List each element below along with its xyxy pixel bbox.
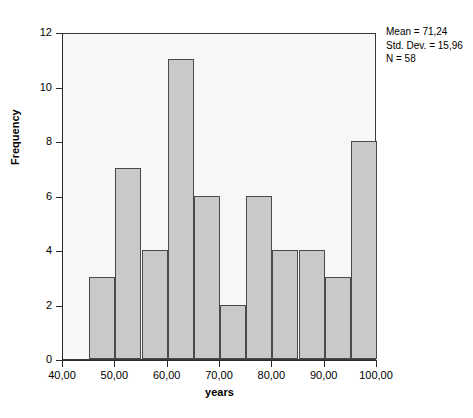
histogram-bar	[220, 305, 246, 360]
histogram-bar	[246, 196, 272, 360]
y-tick-mark	[56, 251, 62, 252]
x-tick-mark	[62, 361, 63, 367]
y-tick-mark	[56, 33, 62, 34]
x-tick-label: 50,00	[84, 370, 144, 381]
x-tick-mark	[271, 361, 272, 367]
y-tick-label: 0	[12, 354, 52, 365]
y-axis-line	[62, 33, 63, 360]
stat-std-dev: Std. Dev. = 15,96	[386, 39, 463, 53]
y-tick-mark	[56, 306, 62, 307]
y-tick-label: 12	[12, 27, 52, 38]
histogram-bar	[272, 250, 298, 359]
stat-n: N = 58	[386, 52, 463, 66]
histogram-bar	[351, 141, 377, 359]
x-tick-label: 80,00	[241, 370, 301, 381]
x-tick-label: 60,00	[137, 370, 197, 381]
x-tick-mark	[114, 361, 115, 367]
histogram-bar	[142, 250, 168, 359]
x-tick-mark	[167, 361, 168, 367]
histogram-bar	[299, 250, 325, 359]
y-tick-mark	[56, 88, 62, 89]
x-tick-mark	[376, 361, 377, 367]
statistics-annotation: Mean = 71,24 Std. Dev. = 15,96 N = 58	[386, 25, 463, 66]
histogram-bar	[325, 277, 351, 359]
histogram-chart: 024681012 40,0050,0060,0070,0080,0090,00…	[0, 0, 473, 418]
plot-area	[62, 33, 376, 360]
histogram-bar	[89, 277, 115, 359]
x-tick-label: 40,00	[32, 370, 92, 381]
x-tick-label: 70,00	[189, 370, 249, 381]
histogram-bar	[168, 59, 194, 359]
y-axis-title: Frequency	[9, 109, 21, 165]
y-tick-mark	[56, 197, 62, 198]
histogram-bar	[194, 196, 220, 360]
y-tick-label: 10	[12, 82, 52, 93]
stat-mean: Mean = 71,24	[386, 25, 463, 39]
histogram-bar	[115, 168, 141, 359]
y-tick-mark	[56, 142, 62, 143]
y-tick-label: 2	[12, 300, 52, 311]
x-tick-label: 90,00	[294, 370, 354, 381]
y-tick-label: 6	[12, 191, 52, 202]
x-axis-title: years	[62, 386, 377, 398]
y-tick-label: 4	[12, 245, 52, 256]
x-tick-mark	[219, 361, 220, 367]
x-tick-mark	[324, 361, 325, 367]
bars-layer	[63, 34, 375, 359]
x-tick-label: 100,00	[346, 370, 406, 381]
